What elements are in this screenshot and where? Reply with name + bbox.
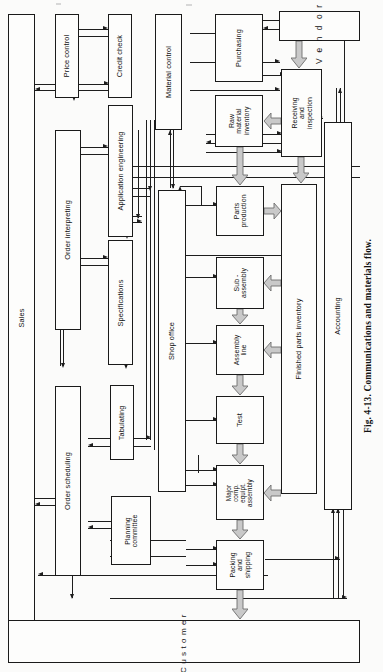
box-purchasing-label: Purchasing [235,29,243,67]
box-tabulating-label: Tabulating [118,405,126,440]
connector [198,455,199,473]
material-flow-arrow [232,520,248,540]
material-flow-arrow [264,113,281,129]
box-customer[interactable]: Customer [8,620,360,663]
box-credit-check-label: Credit check [116,35,124,77]
connector [110,598,347,599]
material-flow-arrow [291,41,307,69]
material-flow-arrow [264,342,281,358]
box-price-control[interactable]: Price control [55,14,79,98]
box-raw-material-inventory[interactable]: Raw material inventory [215,95,263,147]
box-credit-check[interactable]: Credit check [108,14,132,98]
arrowhead [342,595,347,599]
box-order-interpreting-label: Order interpreting [64,200,72,260]
box-accounting-label: Accounting [334,297,342,335]
box-assembly-line-label: Assembly line [233,335,248,366]
box-planning-committee[interactable]: Planning committee [111,496,151,565]
connector [146,120,147,440]
material-flow-arrow [264,485,281,501]
scan-speckle [56,3,61,5]
arrowhead [275,59,280,63]
box-planning-committee-label: Planning committee [124,514,139,547]
box-price-control-label: Price control [63,35,71,77]
figure-canvas: Sales Price control Credit check Order i… [0,0,383,672]
box-material-control-label: Material control [165,46,173,98]
arrowhead [136,214,140,219]
connector [63,330,64,366]
box-order-scheduling[interactable]: Order scheduling [55,386,81,576]
box-test-label: Test [236,413,244,427]
arrowhead [338,88,342,93]
box-application-engineering[interactable]: Application engineering [108,105,133,237]
connector [201,186,202,206]
box-sales[interactable]: Sales [8,14,35,621]
box-shop-office[interactable]: Shop office [158,190,186,492]
connector [150,120,151,440]
box-vendors[interactable]: Vendors [279,11,360,41]
arrowhead [146,435,151,439]
box-vendors-label: Vendors [315,0,324,64]
connector [265,559,340,560]
box-sub-assembly[interactable]: Sub - assembly [216,257,264,309]
arrowhead [38,572,43,576]
material-flow-arrow [264,203,281,219]
connector [138,130,139,218]
box-shop-office-label: Shop office [168,322,176,360]
arrowhead [148,186,152,191]
connector [173,130,174,188]
arrowhead [263,26,268,30]
arrowhead [171,184,175,189]
box-order-scheduling-label: Order scheduling [64,452,72,510]
box-customer-label: Customer [180,611,189,672]
box-major-comp-equipt-assembly-label: Major comp. equipt. assembly [226,479,254,507]
box-material-control[interactable]: Material control [155,14,182,130]
connector [190,90,280,91]
box-finished-parts-inventory-label: Finished parts inventory [295,299,303,380]
box-receiving-and-inspection-label: Receiving and inspection [290,97,312,129]
arrowhead [335,556,340,560]
arrowhead [35,502,40,506]
box-finished-parts-inventory[interactable]: Finished parts inventory [281,184,317,494]
arrowhead [275,87,280,91]
connector [338,510,339,598]
arrowhead [61,363,65,368]
material-flow-arrow [232,375,248,396]
box-specifications[interactable]: Specifications [108,240,133,365]
arrowhead [35,87,40,91]
material-flow-arrow [232,444,248,465]
box-test[interactable]: Test [216,396,264,444]
material-flow-arrow [232,309,248,325]
box-application-engineering-label: Application engineering [117,131,125,210]
connector [60,330,61,366]
box-specifications-label: Specifications [117,279,125,326]
figure-caption: Fig. 4-13. Communications and materials … [363,239,373,433]
arrowhead [88,525,93,529]
material-flow-arrow [293,157,309,184]
box-parts-production-label: Parts production [233,194,248,227]
box-major-comp-equipt-assembly[interactable]: Major comp. equipt. assembly [216,465,264,520]
box-purchasing[interactable]: Purchasing [215,14,263,82]
connector [186,255,296,256]
box-receiving-and-inspection[interactable]: Receiving and inspection [281,69,322,157]
box-packing-and-shipping-label: Packing and shipping [229,552,251,578]
arrowhead [168,130,172,135]
box-order-interpreting[interactable]: Order interpreting [55,130,81,330]
connector [343,510,344,598]
connector [154,120,155,450]
figure-caption-wrap: Fig. 4-13. Communications and materials … [352,0,383,672]
scan-speckle [186,4,192,6]
box-sales-label: Sales [18,308,26,327]
arrowhead [137,219,142,223]
connector [180,186,202,187]
material-flow-arrow [264,275,281,291]
box-packing-and-shipping[interactable]: Packing and shipping [216,540,264,590]
material-flow-arrow [232,147,248,186]
box-raw-material-inventory-label: Raw material inventory [228,107,250,136]
box-parts-production[interactable]: Parts production [216,186,264,236]
box-sub-assembly-label: Sub - assembly [233,268,248,298]
box-accounting[interactable]: Accounting [324,122,352,510]
material-flow-arrow [232,590,248,620]
box-tabulating[interactable]: Tabulating [110,385,134,460]
connector [170,130,171,188]
box-assembly-line[interactable]: Assembly line [216,325,264,375]
